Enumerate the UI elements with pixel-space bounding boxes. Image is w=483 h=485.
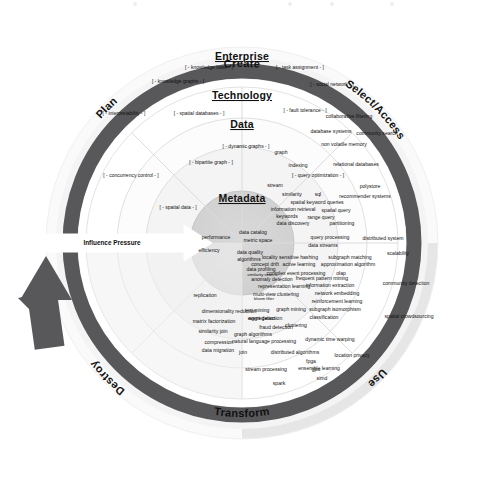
bracket-term-technology: [ - interpretability - ] [103,110,146,116]
term-technology_ring: subgraph matching [328,254,371,260]
term-technology_ring: data migration [202,347,234,353]
term-metadata_core: efficiency [198,247,220,253]
term-metadata_core: algorithms [237,256,261,262]
term-technology_ring: polystore [360,183,381,189]
term-technology_ring: reinforcement learning [312,298,363,304]
bracket-term-technology: [ - concurrency control - ] [103,172,159,178]
term-technology_ring: recommender systems [339,193,391,199]
term-technology_ring: natural language processing [232,338,296,344]
bracket-term-enterprise: [ - social network - ] [310,81,354,87]
term-technology_ring: graph mining [276,306,306,312]
term-technology_ring: approximation algorithm [321,261,375,267]
bracket-term-data: [ - dynamic graphs - ] [223,143,271,149]
term-data_ring: graph [274,149,287,155]
term-technology_ring: replication [193,292,216,298]
term-technology_ring: database systems [310,128,352,134]
bracket-term-technology: [ - spatial databases - ] [174,110,225,116]
term-technology_ring: dynamic time warping [305,336,354,342]
term-technology_ring: distributed system [362,235,403,241]
ring-title-technology: Technology [212,89,272,101]
term-technology_ring: text mining [245,307,270,313]
term-technology_ring: collaborative filtering [326,113,373,119]
ring-title-enterprise: Enterprise [215,50,269,62]
term-data_ring: query processing [311,234,350,240]
term-technology_ring: simd [317,375,328,381]
term-technology_ring: subgraph isomorphism [309,306,361,312]
term-data_ring: sql [315,191,322,197]
term-metadata_core: metric space [244,237,273,243]
term-technology_ring: relational databases [333,161,379,167]
term-technology_ring: fraud detection [259,324,293,330]
term-technology_ring: scalability [387,250,410,256]
term-data_ring: similarity [282,191,302,197]
term-technology_ring: bloom filter [254,296,275,301]
term-technology_ring: gpu [312,366,321,372]
term-data_ring: indexing [289,162,308,168]
bracket-term-data: [ - bipartite graph - ] [189,159,233,165]
term-data_ring: stream [267,182,283,188]
term-technology_ring: graph algorithms [234,331,272,337]
ring-title-data: Data [230,118,254,130]
term-technology_ring: non volatile memory [321,141,367,147]
bracket-term-technology: [ - fault tolerance - ] [283,107,327,113]
term-technology_ring: olap [336,270,346,276]
bracket-term-enterprise: [ - knowledge graphs - ] [152,78,205,84]
ring-title-metadata: Metadata [218,192,265,204]
term-metadata_core: performance [202,234,231,240]
term-technology_ring: locality sensitive hashing [262,254,318,260]
term-technology_ring: stream processing [245,366,287,372]
term-technology_ring: spark [273,380,286,386]
term-technology_ring: data streams [308,242,338,248]
term-technology_ring: information extraction [306,282,355,288]
term-technology_ring: event detection [248,315,283,321]
term-technology_ring: community detection [383,280,430,286]
term-technology_ring: active learning [283,261,316,267]
term-metadata_core: data catalog [239,229,267,235]
term-technology_ring: compression [205,339,234,345]
term-technology_ring: classification [310,314,339,320]
term-technology_ring: spatial crowdsourcing [385,313,434,319]
term-technology_ring: similarity join [198,328,227,334]
bracket-term-enterprise: [ - knowledge base - ] [185,64,233,70]
diagram-canvas: Create Transform Plan Select/Access Use … [0,0,483,485]
term-technology_ring: representation learning [258,283,310,289]
term-technology_ring: fpga [306,358,316,364]
term-technology_ring: location privacy [334,352,370,358]
term-technology_ring: network embedding [315,290,360,296]
bracket-term-data: [ - query optimization - ] [292,172,345,178]
term-data_ring: data discovery [277,220,310,226]
term-technology_ring: community search [356,130,397,136]
term-data_ring: spatial keyword queries [290,199,344,205]
influence-pressure-label: Influence Pressure [83,239,141,246]
term-data_ring: partitioning [330,220,355,226]
term-data_ring: spatial query [322,207,351,213]
term-technology_ring: matrix factorization [193,318,236,324]
term-metadata_core: data quality [237,249,264,255]
term-technology_ring: join [238,349,247,355]
term-data_ring: information retrieval [271,206,316,212]
term-technology_ring: distributed algorithms [271,349,320,355]
lifecycle-wheel-svg: Create Transform Plan Select/Access Use … [0,0,483,485]
bracket-term-enterprise: [ - task assignment - ] [276,64,324,70]
bracket-term-technology: [ - spatial data - ] [159,204,197,210]
term-data_ring: keywords [276,213,298,219]
